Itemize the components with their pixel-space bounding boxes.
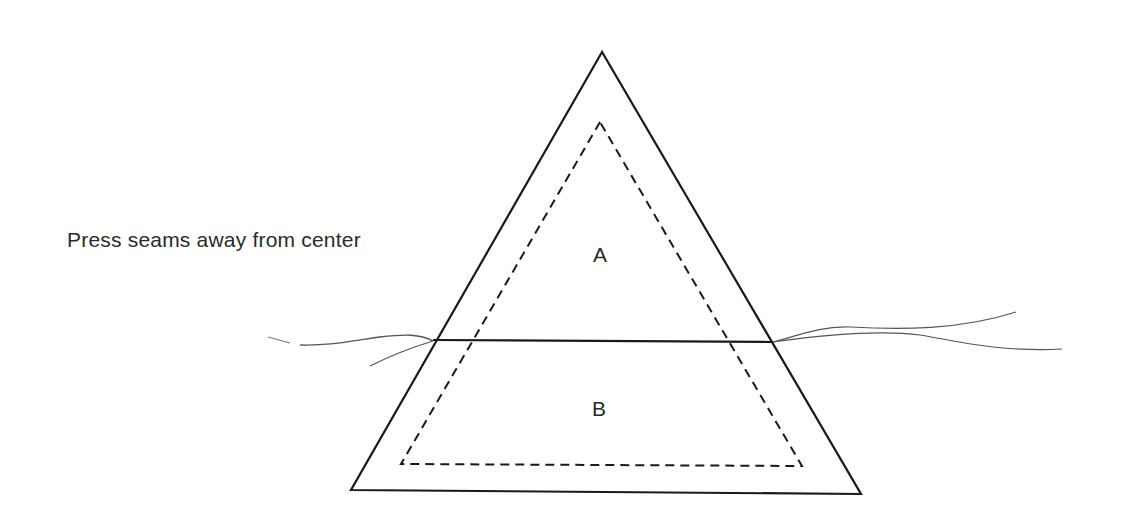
piece-label-b: B	[592, 397, 606, 421]
pressing-instruction: Press seams away from center	[67, 228, 361, 252]
triangle-diagram	[0, 0, 1128, 522]
right-thread-tail-lower	[773, 333, 1062, 350]
joining-seam	[433, 340, 773, 342]
left-thread-tail-upper	[300, 335, 433, 345]
diagram-canvas: Press seams away from center A B	[0, 0, 1128, 522]
left-thread-tail-dash	[268, 337, 290, 343]
outer-cut-line	[351, 52, 861, 494]
piece-label-a: A	[593, 243, 607, 267]
